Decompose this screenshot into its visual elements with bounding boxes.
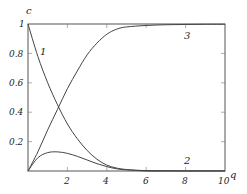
x-tick-label: 10 bbox=[218, 176, 230, 186]
y-tick-label: 1 bbox=[19, 19, 25, 29]
y-axis-label: c bbox=[26, 5, 32, 16]
plot-frame bbox=[28, 24, 225, 171]
x-tick-label: 2 bbox=[63, 176, 70, 186]
y-tick-label: 0.6 bbox=[9, 78, 24, 88]
y-ticks bbox=[28, 53, 225, 141]
x-tick-label: 8 bbox=[182, 176, 188, 186]
y-tick-label: 0.4 bbox=[9, 107, 24, 117]
chart: 2 4 6 8 10 0.2 0.4 0.6 0.8 1 c q 1 2 3 bbox=[0, 0, 247, 194]
y-tick-label: 0.2 bbox=[9, 137, 24, 147]
x-axis-label: q bbox=[230, 169, 236, 180]
curves bbox=[28, 24, 225, 171]
curve-1 bbox=[28, 24, 225, 171]
curve-label-3: 3 bbox=[184, 30, 190, 41]
x-tick-label: 6 bbox=[143, 176, 149, 186]
curve-2 bbox=[28, 152, 225, 171]
curve-label-1: 1 bbox=[40, 46, 46, 57]
curve-3 bbox=[28, 24, 225, 171]
x-tick-label: 4 bbox=[102, 176, 109, 186]
y-tick-label: 0.8 bbox=[9, 49, 24, 59]
curve-label-2: 2 bbox=[183, 155, 190, 166]
